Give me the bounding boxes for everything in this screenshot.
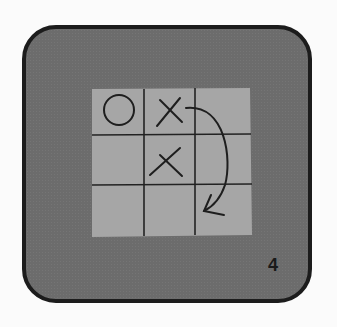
tic-tac-toe-board [0, 0, 337, 327]
step-number: 4 [268, 255, 278, 276]
